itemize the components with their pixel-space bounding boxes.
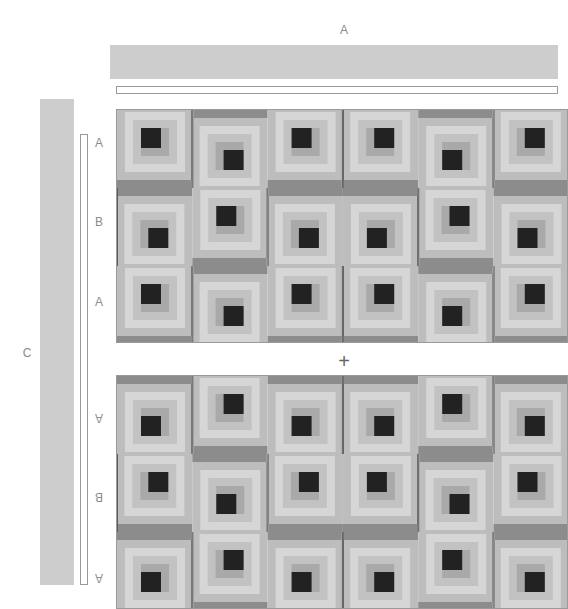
- log-cabin-block: [268, 188, 343, 266]
- log-cabin-block: [117, 454, 192, 532]
- left-border-strip: [40, 99, 74, 585]
- log-cabin-block: [192, 376, 267, 454]
- log-cabin-block: [343, 110, 418, 188]
- log-cabin-block: [192, 188, 267, 266]
- log-cabin-block: [343, 188, 418, 266]
- log-cabin-block: [268, 376, 343, 454]
- log-cabin-block: [418, 454, 493, 532]
- quilt-panel-bottom: [116, 375, 568, 609]
- log-cabin-block: [268, 454, 343, 532]
- log-cabin-block: [494, 454, 568, 532]
- row-label-top-2: B: [91, 216, 107, 228]
- row-label-bottom-3: A: [91, 572, 107, 584]
- log-cabin-block: [418, 266, 493, 343]
- log-cabin-block: [343, 266, 418, 343]
- log-cabin-block: [343, 376, 418, 454]
- log-cabin-blocks-bottom: [117, 376, 568, 609]
- log-cabin-block: [418, 376, 493, 454]
- row-label-top-3: A: [91, 296, 107, 308]
- log-cabin-block: [343, 532, 418, 609]
- log-cabin-block: [494, 376, 568, 454]
- log-cabin-block: [268, 532, 343, 609]
- log-cabin-block: [192, 110, 267, 188]
- log-cabin-block: [494, 532, 568, 609]
- log-cabin-block: [268, 266, 343, 343]
- log-cabin-block: [418, 188, 493, 266]
- log-cabin-block: [117, 188, 192, 266]
- quilt-panel-top: [116, 109, 568, 343]
- log-cabin-block: [192, 454, 267, 532]
- left-sashing-outline: [80, 134, 88, 585]
- log-cabin-block: [494, 266, 568, 343]
- log-cabin-block: [494, 110, 568, 188]
- top-border-label: A: [336, 24, 352, 36]
- top-sashing-outline: [116, 86, 558, 94]
- log-cabin-block: [192, 532, 267, 609]
- log-cabin-block: [117, 532, 192, 609]
- log-cabin-block: [268, 110, 343, 188]
- log-cabin-block: [343, 454, 418, 532]
- log-cabin-block: [117, 376, 192, 454]
- log-cabin-block: [192, 266, 267, 343]
- log-cabin-block: [494, 188, 568, 266]
- log-cabin-blocks-top: [117, 110, 568, 343]
- side-border-label: C: [19, 347, 35, 359]
- log-cabin-block: [117, 266, 192, 343]
- log-cabin-block: [418, 532, 493, 609]
- row-label-bottom-2: B: [91, 491, 107, 503]
- row-label-top-1: A: [91, 137, 107, 149]
- join-plus-icon: +: [334, 351, 354, 371]
- top-border-strip: [110, 45, 558, 79]
- log-cabin-block: [418, 110, 493, 188]
- log-cabin-block: [117, 110, 192, 188]
- row-label-bottom-1: A: [91, 412, 107, 424]
